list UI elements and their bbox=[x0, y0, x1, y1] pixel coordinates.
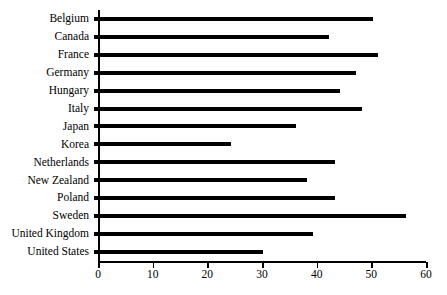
x-tick-label: 20 bbox=[202, 269, 214, 281]
category-label: Canada bbox=[0, 31, 94, 43]
chart-row: Italy bbox=[0, 100, 447, 118]
chart-row: Poland bbox=[0, 189, 447, 207]
category-label: France bbox=[0, 49, 94, 61]
chart-row: France bbox=[0, 46, 447, 64]
category-label: Sweden bbox=[0, 210, 94, 222]
chart-row: Germany bbox=[0, 64, 447, 82]
category-label: Italy bbox=[0, 103, 94, 115]
x-tick-label: 30 bbox=[256, 269, 268, 281]
chart-row: Belgium bbox=[0, 10, 447, 28]
category-label: New Zealand bbox=[0, 175, 94, 187]
bar bbox=[94, 250, 263, 254]
category-label: Korea bbox=[0, 139, 94, 151]
bar-cell bbox=[94, 46, 447, 64]
bar-cell bbox=[94, 243, 447, 261]
x-tick-label: 60 bbox=[420, 269, 432, 281]
chart-row: Sweden bbox=[0, 207, 447, 225]
bar-chart: BelgiumCanadaFranceGermanyHungaryItalyJa… bbox=[0, 0, 447, 295]
bar bbox=[94, 17, 373, 21]
chart-rows: BelgiumCanadaFranceGermanyHungaryItalyJa… bbox=[0, 10, 447, 261]
chart-row: Japan bbox=[0, 118, 447, 136]
bar bbox=[94, 178, 307, 182]
category-label: United Kingdom bbox=[0, 228, 94, 240]
bar-cell bbox=[94, 153, 447, 171]
chart-row: United Kingdom bbox=[0, 225, 447, 243]
chart-row: New Zealand bbox=[0, 171, 447, 189]
category-label: Netherlands bbox=[0, 157, 94, 169]
chart-row: Hungary bbox=[0, 82, 447, 100]
bar-cell bbox=[94, 82, 447, 100]
category-label: United States bbox=[0, 246, 94, 258]
bar-cell bbox=[94, 100, 447, 118]
chart-row: Korea bbox=[0, 135, 447, 153]
x-axis-ticks: 0102030405060 bbox=[98, 262, 426, 268]
bar-cell bbox=[94, 118, 447, 136]
bar bbox=[94, 124, 296, 128]
bar bbox=[94, 71, 356, 75]
bar bbox=[94, 214, 406, 218]
bar-cell bbox=[94, 207, 447, 225]
bar bbox=[94, 53, 378, 57]
bar-cell bbox=[94, 64, 447, 82]
category-label: Belgium bbox=[0, 13, 94, 25]
bar bbox=[94, 89, 340, 93]
bar bbox=[94, 232, 313, 236]
category-label: Germany bbox=[0, 67, 94, 79]
x-tick-label: 50 bbox=[366, 269, 378, 281]
bar bbox=[94, 196, 335, 200]
bar-cell bbox=[94, 225, 447, 243]
x-tick-label: 0 bbox=[95, 269, 101, 281]
bar-cell bbox=[94, 28, 447, 46]
bar-cell bbox=[94, 171, 447, 189]
bar-cell bbox=[94, 10, 447, 28]
chart-row: Canada bbox=[0, 28, 447, 46]
chart-row: United States bbox=[0, 243, 447, 261]
category-label: Poland bbox=[0, 192, 94, 204]
chart-row: Netherlands bbox=[0, 153, 447, 171]
x-tick-label: 10 bbox=[147, 269, 159, 281]
bar bbox=[94, 107, 362, 111]
category-label: Japan bbox=[0, 121, 94, 133]
bar bbox=[94, 35, 329, 39]
bar bbox=[94, 142, 231, 146]
bar bbox=[94, 160, 335, 164]
bar-cell bbox=[94, 135, 447, 153]
x-tick-label: 40 bbox=[311, 269, 323, 281]
bar-cell bbox=[94, 189, 447, 207]
category-label: Hungary bbox=[0, 85, 94, 97]
